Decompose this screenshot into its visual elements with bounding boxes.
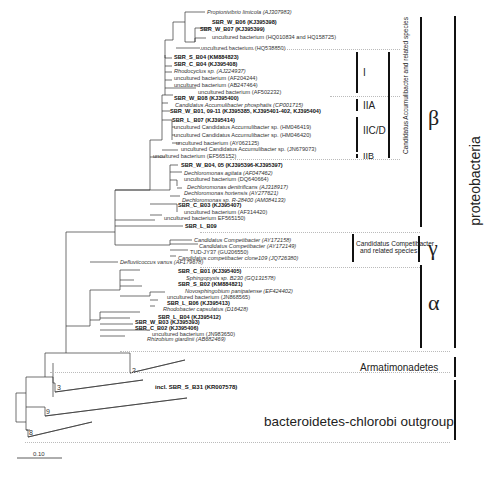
- accumulibacter-bar: [388, 52, 390, 158]
- leaf-label: uncultured Candidatus Accumulibacter sp.…: [174, 132, 311, 138]
- subclade-label-IIB: IIB: [363, 151, 374, 161]
- leaf-label: Defluviicoccus vanus (AF179678): [120, 259, 203, 265]
- leaf-label: Rhodobacter capsulatus (D16428): [163, 306, 248, 312]
- leaf-label: uncultured bacterium (AB247464): [174, 82, 258, 88]
- leaf-label: uncultured Candidatus Accumulibacter sp.…: [181, 146, 316, 152]
- separator: [120, 351, 450, 352]
- subclade-label-IICD: IIC/D: [363, 125, 386, 136]
- leaf-label: SBR_S_B04 (KM884823): [174, 54, 239, 60]
- collapsed-clade-count: 9: [46, 409, 50, 415]
- beta-label: β: [428, 105, 439, 131]
- leaf-label: SBR_W_B06 (KJ395398): [212, 19, 277, 25]
- alpha-label: α: [428, 290, 440, 316]
- subclade-label-IIA: IIA: [363, 100, 375, 111]
- collapsed-clade-count: 2: [132, 368, 136, 374]
- leaf-label: Rhizobium giardinii (AB682469): [147, 336, 226, 342]
- competibacter-label-line1: Candidatus Competibacter: [356, 240, 416, 247]
- alpha-bar: [420, 265, 422, 348]
- separator: [230, 159, 400, 160]
- leaf-label: SBR_L_B07 (KJ395414): [172, 117, 235, 123]
- leaf-label: Propionivibrio limicola (AJ307983): [207, 9, 292, 15]
- leaf-label: uncultured bacterium (DQ640664): [184, 176, 269, 182]
- subclade-label-I: I: [363, 67, 366, 78]
- leaf-label: uncultured Candidatus Accumulibacter sp.…: [174, 124, 311, 130]
- leaf-label: SBR_S_B02 (KM884821): [178, 281, 243, 287]
- competibacter-label: Candidatus Competibacter and related spe…: [360, 240, 416, 254]
- gamma-label: γ: [428, 235, 438, 261]
- collapsed-clade-count: 3: [57, 385, 61, 391]
- proteobacteria-bar: [454, 16, 456, 348]
- subclade-bar-IIA: [356, 99, 358, 111]
- subclade-bar-IIB: [356, 154, 358, 158]
- leaf-label: uncultured bacterium (HQ010834 and HQ158…: [212, 34, 336, 40]
- leaf-label: uncultured bacterium (EF565152): [153, 153, 236, 159]
- subclade-bar-IICD: [356, 117, 358, 152]
- scale-bar-label: 0.10: [33, 451, 45, 457]
- leaf-label: SBR_W_B07 (KJ395399): [200, 26, 265, 32]
- separator: [200, 232, 420, 233]
- separator: [25, 442, 450, 443]
- leaf-label: SBR_W_B04, 05 (KJ395396-KJ395397): [181, 162, 283, 168]
- leaf-label: uncultured bacterium (HQ538850): [201, 45, 286, 51]
- armatimonadetes-label: Armatimonadetes: [360, 362, 438, 373]
- outgroup-label: bacteroidetes-chlorobi outgroup: [264, 414, 454, 429]
- leaf-label: uncultured bacterium (AF204244): [174, 75, 257, 81]
- collapsed-clade-note: incl. SBR_S_B31 (KR007578): [155, 384, 237, 390]
- leaf-label: SBR_C_B01 (KJ395405): [178, 268, 241, 274]
- separator: [200, 267, 420, 268]
- armatimonadetes-bar: [454, 357, 456, 377]
- competibacter-bar: [352, 234, 354, 262]
- leaf-label: SBR_L_B09: [185, 223, 217, 229]
- leaf-label: SBR_W_B08 (KJ395400): [174, 95, 239, 101]
- separator: [200, 49, 400, 50]
- leaf-label: SBR_C_B04 (KJ395408): [174, 61, 237, 67]
- competibacter-label-line2: and related species: [360, 247, 416, 254]
- collapsed-clade-count: 8: [29, 430, 33, 436]
- beta-bar: [420, 17, 422, 227]
- leaf-label: uncultured bacterium EF565150): [164, 215, 245, 221]
- leaf-label: SBR_W_B01, 09-11 (KJ395385, KJ395401-402…: [170, 108, 321, 114]
- outgroup-bar: [454, 380, 456, 440]
- leaf-label: SBR_C_B03 (KJ395407): [178, 202, 241, 208]
- proteobacteria-label: proteobacteria: [467, 131, 483, 231]
- leaf-label: Dechloromonas hortensis (AY277621): [184, 190, 278, 196]
- subclade-bar-I: [356, 52, 358, 93]
- leaf-label: Rhodocyclus sp. (AJ224937): [174, 68, 246, 74]
- accumulibacter-label: Candidatus Accumulibacter and related sp…: [402, 54, 410, 154]
